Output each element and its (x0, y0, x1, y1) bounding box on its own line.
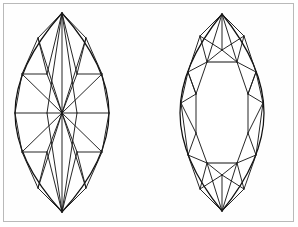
marquise-table-facet-view (180, 14, 264, 211)
figure-frame (0, 0, 298, 227)
gem-diagram-canvas (0, 0, 298, 227)
marquise-star-facet-view (15, 13, 109, 212)
